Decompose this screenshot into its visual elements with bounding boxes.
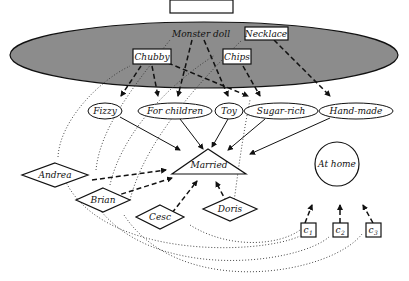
person-andrea: Andrea [22,163,88,187]
married-label: Married [189,160,227,170]
attr-toy: Toy [215,103,243,119]
context-sub: 3 [374,229,378,236]
attr-label: Sugar-rich [257,106,305,116]
box-monster-doll: Monster doll [170,0,233,39]
context-label: c [368,225,373,235]
person-brian: Brian [76,188,130,212]
context-sub: 2 [340,229,345,236]
attr-hand-made: Hand-made [319,103,393,119]
married-triangle: Married [172,149,246,174]
box-chubby: Chubby [133,49,171,64]
attr-fizzy: Fizzy [88,103,122,119]
box-label: Chubby [134,52,170,62]
attr-label: Fizzy [92,106,118,116]
at-home-label: At home [317,159,356,169]
context-sub: 1 [309,229,313,236]
box-label: Monster doll [171,29,230,39]
attr-label: For children [146,106,203,116]
attr-label: Hand-made [329,106,383,116]
context-label: c [303,225,308,235]
context-c2: c 2 [333,223,348,237]
box-label: Necklace [244,29,287,39]
person-label: Andrea [37,170,71,180]
person-label: Cesc [149,212,171,222]
attr-for-children: For children [138,103,212,119]
diagram-canvas: Monster doll Necklace Chubby Chips Fizzy… [0,0,409,281]
context-label: c [335,225,340,235]
at-home-circle: At home [315,142,359,186]
person-label: Doris [217,204,243,214]
solid-edges [120,117,330,154]
person-cesc: Cesc [136,205,184,229]
person-label: Brian [90,195,116,205]
attr-label: Toy [221,106,238,116]
person-doris: Doris [203,197,257,221]
context-c1: c 1 [301,223,316,237]
context-c3: c 3 [366,223,381,237]
attr-sugar-rich: Sugar-rich [244,103,318,119]
box-label: Chips [224,52,250,62]
box-chips: Chips [223,49,251,64]
box-necklace: Necklace [244,27,288,40]
